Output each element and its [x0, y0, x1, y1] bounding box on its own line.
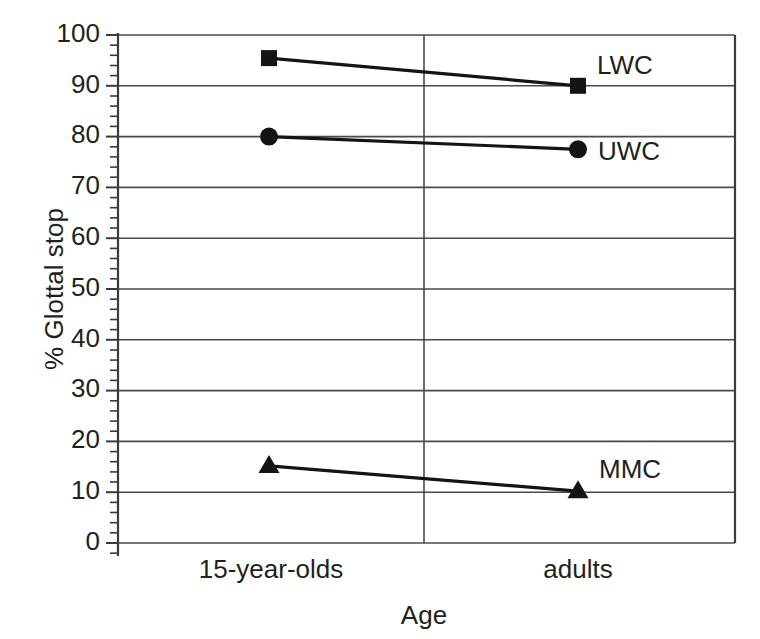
x-tick-label-adults: adults [543, 554, 612, 584]
y-axis-title: % Glottal stop [39, 208, 69, 370]
y-tick-label: 50 [71, 272, 100, 302]
y-tick-label: 30 [71, 373, 100, 403]
y-tick-label: 80 [71, 119, 100, 149]
y-tick-label: 70 [71, 170, 100, 200]
x-axis-tick-labels: 15-year-olds adults [199, 554, 613, 584]
series-label-mmc: MMC [599, 454, 661, 484]
series-lwc-marker-15-year-olds [261, 50, 277, 66]
y-tick-label: 0 [86, 526, 100, 556]
series-uwc-marker-15-year-olds [260, 128, 278, 146]
x-axis-title: Age [401, 600, 447, 630]
series-lwc-marker-adults [570, 78, 586, 94]
y-axis-minor-ticks [110, 45, 118, 553]
y-tick-label: 40 [71, 323, 100, 353]
line-chart-svg: 100 90 80 70 60 50 40 30 20 10 0 % Glott… [0, 0, 760, 639]
chart-figure: 100 90 80 70 60 50 40 30 20 10 0 % Glott… [0, 0, 760, 639]
y-tick-label: 60 [71, 221, 100, 251]
series-label-lwc: LWC [597, 50, 653, 80]
y-tick-label: 90 [71, 69, 100, 99]
y-tick-label: 100 [57, 18, 100, 48]
y-tick-label: 10 [71, 475, 100, 505]
y-axis-major-ticks [106, 35, 118, 543]
x-tick-label-15-year-olds: 15-year-olds [199, 554, 344, 584]
series-label-uwc: UWC [598, 136, 660, 166]
y-tick-label: 20 [71, 424, 100, 454]
series-uwc-marker-adults [569, 140, 587, 158]
